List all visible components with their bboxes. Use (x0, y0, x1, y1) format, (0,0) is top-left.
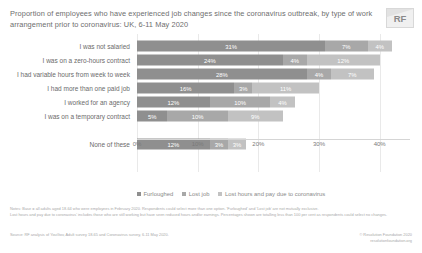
bar-segment: 10% (210, 97, 271, 108)
chart-plot-area: I was not salariedI was on a zero-hours … (0, 34, 422, 176)
value-axis: 0%10%20%30%40% (137, 139, 410, 149)
copyright-block: © Resolution Foundation 2020 resolutionf… (359, 232, 412, 244)
axis-line (137, 139, 410, 140)
category-label: I had more than one paid job (47, 85, 130, 92)
chart-legend: FurloughedLost jobLost hours and pay due… (137, 191, 325, 197)
category-label: None of these (90, 141, 130, 148)
bar-segment: 4% (270, 97, 294, 108)
axis-tick-label: 40% (374, 141, 386, 147)
legend-label: Furloughed (144, 191, 174, 197)
bar-segment: 5% (137, 111, 167, 122)
logo-text: RF (394, 13, 406, 24)
bar-segment: 4% (368, 41, 392, 52)
bar-segment: 11% (252, 83, 319, 94)
bar-segment: 4% (307, 69, 331, 80)
bar-segment: 9% (228, 111, 283, 122)
bar-segment: 4% (283, 55, 307, 66)
resolution-foundation-logo: RF (386, 8, 414, 28)
bars-container: 31%7%4%24%4%12%28%4%7%16%3%11%12%10%4%5%… (137, 34, 410, 172)
category-label: I had variable hours from week to week (17, 71, 130, 78)
bar-segment: 12% (137, 97, 210, 108)
bar-segment: 3% (234, 83, 252, 94)
legend-item[interactable]: Furloughed (137, 191, 173, 197)
legend-item[interactable]: Lost job (182, 191, 209, 197)
copyright-line: © Resolution Foundation 2020 (359, 232, 412, 238)
bar-row: 28%4%7% (137, 69, 374, 80)
bar-row: 16%3%11% (137, 83, 319, 94)
legend-label: Lost hours and pay due to coronavirus (225, 191, 325, 197)
bar-segment: 31% (137, 41, 325, 52)
bar-segment: 12% (307, 55, 380, 66)
bar-row: 12%10%4% (137, 97, 295, 108)
bar-row: 31%7%4% (137, 41, 392, 52)
axis-tick-label: 10% (192, 141, 204, 147)
legend-item[interactable]: Lost hours and pay due to coronavirus (218, 191, 325, 197)
axis-tick-label: 20% (252, 141, 264, 147)
website-line: resolutionfoundation.org (359, 238, 412, 244)
axis-tick-label: 0% (133, 141, 142, 147)
bar-segment: 7% (325, 41, 367, 52)
chart-header: Proportion of employees who have experie… (0, 0, 422, 30)
legend-swatch (182, 192, 186, 196)
bar-segment: 16% (137, 83, 234, 94)
bar-segment: 24% (137, 55, 283, 66)
bar-segment: 7% (331, 69, 373, 80)
page-title: Proportion of employees who have experie… (10, 9, 386, 30)
chart-source: Source: RF analysis of YouGov, Adult sur… (10, 232, 412, 244)
notes-line-2: Lost hours and pay due to coronavirus' i… (10, 212, 412, 218)
chart-notes: Notes: Base = all adults aged 18-64 who … (10, 206, 412, 218)
legend-swatch (137, 192, 141, 196)
category-label: I was on a zero-hours contract (43, 57, 130, 64)
source-text: Source: RF analysis of YouGov, Adult sur… (10, 232, 169, 238)
bar-segment: 28% (137, 69, 307, 80)
category-axis-labels: I was not salariedI was on a zero-hours … (0, 34, 134, 176)
category-label: I was not salaried (79, 43, 130, 50)
gridline (380, 34, 381, 172)
bar-segment: 10% (167, 111, 228, 122)
legend-swatch (218, 192, 222, 196)
bar-row: 24%4%12% (137, 55, 380, 66)
category-label: I was on a temporary contract (44, 113, 130, 120)
axis-tick-label: 30% (313, 141, 325, 147)
legend-label: Lost job (189, 191, 210, 197)
bar-row: 5%10%9% (137, 111, 283, 122)
category-label: I worked for an agency (64, 99, 130, 106)
